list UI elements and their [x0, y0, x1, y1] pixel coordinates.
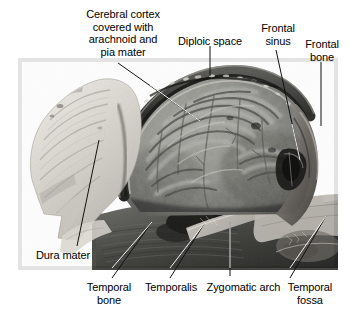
leader-temporalis: [170, 224, 204, 278]
label-temporal-bone: Temporal bone: [78, 281, 140, 306]
leader-temporal-fossa: [290, 216, 326, 278]
label-diploic-space: Diploic space: [163, 35, 257, 48]
label-temporal-fossa: Temporal fossa: [282, 281, 338, 306]
leader-cerebral-cortex: [118, 63, 200, 121]
label-frontal-bone: Frontal bone: [296, 38, 348, 63]
label-cerebral-cortex: Cerebral cortex covered with arachnoid a…: [62, 8, 184, 58]
label-dura-mater: Dura mater: [26, 249, 100, 262]
label-zygomatic-arch: Zygomatic arch: [196, 281, 291, 294]
leader-temporal-bone: [112, 222, 152, 278]
leader-dura-mater: [77, 140, 99, 246]
label-temporalis: Temporalis: [139, 281, 203, 294]
leader-frontal-sinus: [276, 50, 300, 160]
anatomy-figure: Cerebral cortex covered with arachnoid a…: [0, 0, 349, 315]
